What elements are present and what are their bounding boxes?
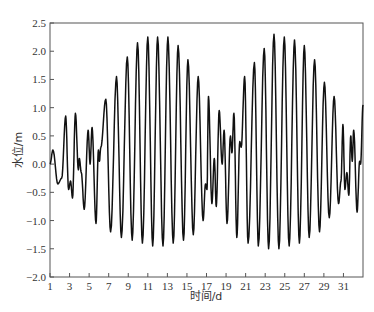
y-tick-label: −1.0 bbox=[26, 215, 46, 227]
x-tick-label: 21 bbox=[240, 280, 251, 292]
x-tick-label: 5 bbox=[86, 280, 92, 292]
y-tick-label: −0.5 bbox=[26, 186, 46, 198]
y-tick-label: −1.5 bbox=[26, 243, 46, 255]
y-tick-label: 0.5 bbox=[32, 130, 46, 142]
x-tick-label: 25 bbox=[279, 280, 291, 292]
y-tick-label: 1.0 bbox=[32, 102, 46, 114]
x-tick-label: 31 bbox=[338, 280, 349, 292]
x-tick-label: 13 bbox=[162, 280, 174, 292]
x-tick-label: 9 bbox=[126, 280, 132, 292]
water-level-line bbox=[50, 34, 363, 249]
x-tick-label: 23 bbox=[260, 280, 272, 292]
x-tick-label: 29 bbox=[318, 280, 330, 292]
y-tick-label: 2.0 bbox=[32, 45, 46, 57]
plot-frame bbox=[50, 23, 363, 277]
x-tick-label: 3 bbox=[67, 280, 73, 292]
x-axis-label: 时间/d bbox=[190, 290, 223, 303]
x-tick-label: 7 bbox=[106, 280, 112, 292]
y-tick-label: 0.0 bbox=[32, 158, 46, 170]
x-tick-label: 11 bbox=[143, 280, 154, 292]
y-axis-label: 水位/m bbox=[11, 132, 25, 168]
x-tick-label: 1 bbox=[47, 280, 53, 292]
y-tick-label: −2.0 bbox=[26, 271, 46, 283]
water-level-chart: −2.0−1.5−1.0−0.50.00.51.01.52.02.5 13579… bbox=[0, 0, 374, 312]
y-tick-label: 2.5 bbox=[32, 17, 46, 29]
y-tick-label: 1.5 bbox=[32, 73, 46, 85]
x-tick-label: 27 bbox=[299, 280, 311, 292]
